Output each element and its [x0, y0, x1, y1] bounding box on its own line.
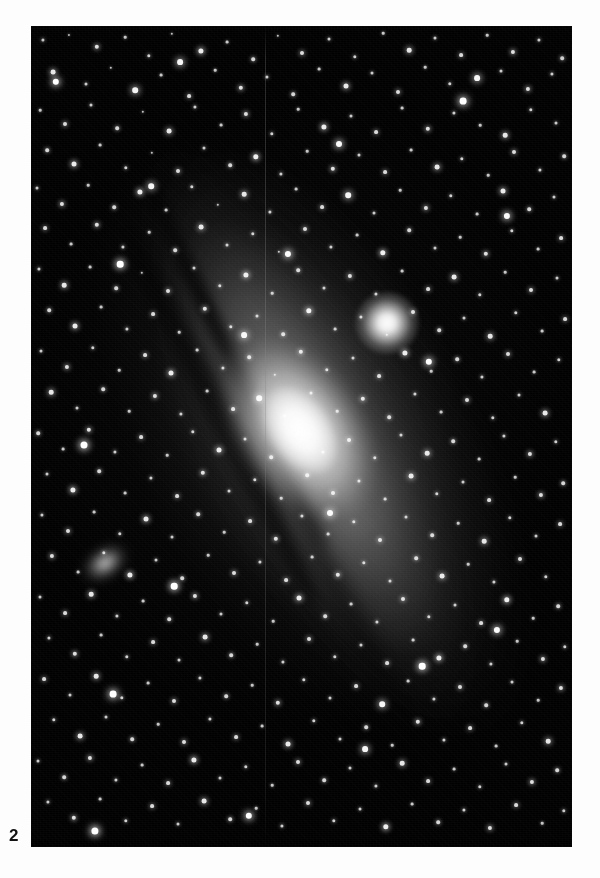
star-point — [167, 129, 172, 134]
star-point — [196, 512, 200, 516]
star-point — [241, 332, 247, 338]
star-point — [511, 681, 514, 684]
star-point — [73, 652, 77, 656]
star-point — [543, 411, 548, 416]
star-point — [407, 228, 411, 232]
star-point — [256, 643, 259, 646]
star-point — [426, 287, 430, 291]
star-point — [449, 194, 452, 197]
star-point — [45, 148, 49, 152]
star-point — [323, 287, 326, 290]
star-point — [504, 597, 509, 602]
star-point — [246, 813, 252, 819]
star-point — [207, 554, 210, 557]
star-point — [218, 284, 221, 287]
star-point — [518, 557, 522, 561]
star-point — [358, 154, 361, 157]
star-point — [484, 252, 488, 256]
star-point — [198, 48, 203, 53]
star-point — [208, 717, 211, 720]
star-point — [99, 144, 102, 147]
star-point — [124, 36, 127, 39]
star-point — [350, 115, 353, 118]
star-point — [413, 392, 416, 395]
star-point — [130, 737, 134, 741]
star-point — [228, 163, 232, 167]
star-point — [359, 315, 362, 318]
star-point — [151, 152, 153, 154]
star-point — [419, 663, 426, 670]
figure-number-label: 2 — [9, 826, 18, 846]
star-point — [93, 511, 96, 514]
star-point — [399, 189, 402, 192]
star-point — [321, 450, 324, 453]
star-point — [553, 196, 556, 199]
star-point — [411, 310, 415, 314]
star-point — [281, 332, 285, 336]
star-point — [70, 243, 73, 246]
star-point — [440, 574, 445, 579]
star-point — [220, 613, 223, 616]
star-point — [554, 440, 557, 443]
star-point — [371, 72, 374, 75]
star-point — [491, 416, 494, 419]
star-point — [559, 236, 563, 240]
star-point — [85, 83, 88, 86]
star-point — [416, 720, 420, 724]
star-point — [504, 213, 510, 219]
star-point — [283, 414, 286, 417]
star-point — [312, 719, 315, 722]
star-point — [100, 634, 103, 637]
star-point — [244, 765, 247, 768]
star-point — [488, 826, 492, 830]
star-point — [166, 454, 169, 457]
star-point — [352, 357, 355, 360]
star-point — [332, 819, 335, 822]
star-point — [563, 317, 567, 321]
star-point — [451, 439, 455, 443]
star-point — [142, 111, 144, 113]
star-point — [153, 394, 157, 398]
star-point — [448, 82, 451, 85]
star-point — [110, 691, 117, 698]
star-point — [148, 231, 151, 234]
star-point — [114, 286, 118, 290]
star-point — [323, 614, 327, 618]
star-point — [339, 738, 342, 741]
star-point — [95, 45, 99, 49]
star-point — [426, 127, 430, 131]
star-point — [462, 481, 465, 484]
star-point — [253, 478, 256, 481]
star-point — [220, 124, 223, 127]
star-point — [179, 412, 182, 415]
star-point — [284, 578, 288, 582]
star-point — [78, 734, 83, 739]
star-point — [76, 407, 79, 410]
star-point — [328, 38, 331, 41]
star-point — [244, 438, 247, 441]
star-point — [356, 234, 359, 237]
star-point — [502, 434, 505, 437]
star-point — [373, 456, 376, 459]
star-point — [400, 761, 405, 766]
star-point — [334, 328, 337, 331]
star-point — [199, 225, 204, 230]
star-point — [113, 450, 116, 453]
star-point — [157, 723, 160, 726]
star-point — [115, 126, 119, 130]
star-point — [124, 819, 127, 822]
star-point — [344, 84, 349, 89]
star-point — [219, 777, 222, 780]
star-point — [182, 740, 186, 744]
star-point — [389, 580, 392, 583]
star-point — [352, 520, 355, 523]
star-point — [383, 170, 387, 174]
star-point — [426, 779, 430, 783]
star-point — [529, 108, 532, 111]
star-point — [436, 820, 440, 824]
star-point — [327, 533, 330, 536]
star-point — [62, 775, 66, 779]
star-point — [555, 122, 558, 125]
star-point — [141, 272, 143, 274]
star-point — [405, 516, 408, 519]
